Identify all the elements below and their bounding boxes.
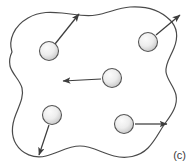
particle-bottom-right bbox=[115, 115, 134, 134]
region-boundary bbox=[10, 7, 177, 157]
figure-panel: (c) bbox=[0, 0, 192, 165]
particle-top-right bbox=[139, 33, 158, 52]
panel-label: (c) bbox=[173, 149, 186, 162]
particle-center bbox=[103, 69, 122, 88]
particle-top-left bbox=[40, 42, 59, 61]
particle-bottom-left bbox=[43, 106, 62, 125]
figure-canvas bbox=[0, 0, 192, 165]
